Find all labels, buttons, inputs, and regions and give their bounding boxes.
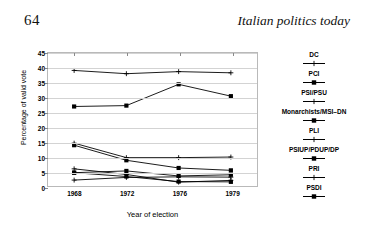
figure-vote-share-chart: Percentage of valid vote 051015202530354… <box>0 44 368 243</box>
data-point-marker-square <box>312 118 316 122</box>
grid-line <box>48 128 257 129</box>
legend-marker-cross-icon <box>301 59 327 68</box>
y-tick-label: 15 <box>38 140 45 147</box>
data-point-marker-square <box>177 166 181 170</box>
grid-line <box>48 173 257 174</box>
legend-label: PLI <box>309 126 319 135</box>
y-tick-mark <box>45 98 48 99</box>
legend-entry-pli[interactable]: PLI <box>262 126 366 144</box>
x-tick-mark <box>233 53 234 56</box>
legend-label: PRI <box>309 164 320 173</box>
data-point-marker-cross <box>176 69 181 74</box>
series-line <box>74 70 231 73</box>
legend-marker-square-icon <box>301 154 327 163</box>
legend-label: PSDI <box>306 183 321 192</box>
legend-marker-square-icon <box>301 192 327 201</box>
x-tick-label: 1972 <box>120 190 134 197</box>
legend-label: DC <box>309 50 318 59</box>
legend-entry-pri[interactable]: PRI <box>262 164 366 182</box>
y-tick-mark <box>45 158 48 159</box>
y-tick-label: 40 <box>38 65 45 72</box>
data-point-marker-square <box>177 174 181 178</box>
y-tick-label: 25 <box>38 110 45 117</box>
y-tick-mark <box>45 143 48 144</box>
legend-entry-psiup-pdup-dp[interactable]: PSIUP/PDUP/DP <box>262 145 366 163</box>
data-point-marker-square <box>312 80 316 84</box>
grid-line <box>48 113 257 114</box>
plot-area: 0510152025303540451968197219761979 <box>47 52 258 187</box>
x-axis-title: Year of election <box>47 210 258 219</box>
grid-line <box>48 53 257 54</box>
y-tick-label: 0 <box>41 185 45 192</box>
y-tick-label: 35 <box>38 80 45 87</box>
data-point-marker-cross <box>311 99 316 104</box>
x-tick-mark <box>180 53 181 56</box>
series-line <box>74 84 231 106</box>
grid-line <box>48 143 257 144</box>
running-head: Italian politics today <box>238 13 351 29</box>
y-tick-mark <box>45 53 48 54</box>
grid-line <box>48 68 257 69</box>
grid-line <box>48 98 257 99</box>
grid-line <box>48 83 257 84</box>
data-point-marker-cross <box>228 70 233 75</box>
y-tick-label: 5 <box>41 170 45 177</box>
legend-entry-dc[interactable]: DC <box>262 50 366 68</box>
data-point-marker-cross <box>311 175 316 180</box>
chart-legend: DCPCIPSI/PSUMonarchists/MSI–DNPLIPSIUP/P… <box>262 50 366 202</box>
legend-entry-psdi[interactable]: PSDI <box>262 183 366 201</box>
x-tick-label: 1968 <box>67 190 81 197</box>
y-tick-label: 45 <box>38 50 45 57</box>
y-tick-mark <box>45 83 48 84</box>
data-point-marker-cross <box>72 178 77 183</box>
legend-label: PCI <box>309 69 320 78</box>
data-point-marker-square <box>312 194 316 198</box>
grid-line <box>48 158 257 159</box>
series-pci <box>72 82 233 108</box>
y-tick-label: 10 <box>38 155 45 162</box>
data-point-marker-cross <box>311 137 316 142</box>
legend-marker-square-icon <box>301 116 327 125</box>
series-dc <box>72 68 234 76</box>
y-axis-title: Percentage of valid vote <box>20 38 27 178</box>
legend-label: Monarchists/MSI–DN <box>282 107 347 116</box>
legend-entry-pci[interactable]: PCI <box>262 69 366 87</box>
legend-label: PSI/PSU <box>301 88 327 97</box>
x-tick-label: 1979 <box>225 190 239 197</box>
x-tick-mark <box>127 53 128 56</box>
y-tick-mark <box>45 68 48 69</box>
legend-marker-cross-icon <box>301 135 327 144</box>
legend-entry-monarchists-msi-dn[interactable]: Monarchists/MSI–DN <box>262 107 366 125</box>
series-line <box>74 143 231 157</box>
legend-label: PSIUP/PDUP/DP <box>289 145 339 154</box>
x-tick-mark <box>74 53 75 56</box>
legend-entry-psi-psu[interactable]: PSI/PSU <box>262 88 366 106</box>
legend-marker-cross-icon <box>301 97 327 106</box>
data-point-marker-square <box>312 156 316 160</box>
data-point-marker-cross <box>72 166 77 171</box>
y-tick-mark <box>45 173 48 174</box>
data-point-marker-square <box>229 180 233 184</box>
data-point-marker-square <box>177 179 181 183</box>
data-point-marker-square <box>124 104 128 108</box>
x-tick-label: 1976 <box>173 190 187 197</box>
data-point-marker-cross <box>124 71 129 76</box>
series-lines <box>48 53 257 186</box>
page-number: 64 <box>24 12 40 29</box>
y-tick-mark <box>45 188 48 189</box>
y-tick-label: 20 <box>38 125 45 132</box>
legend-marker-cross-icon <box>301 173 327 182</box>
legend-marker-square-icon <box>301 78 327 87</box>
y-tick-mark <box>45 113 48 114</box>
data-point-marker-cross <box>311 61 316 66</box>
y-tick-label: 30 <box>38 95 45 102</box>
y-tick-mark <box>45 128 48 129</box>
data-point-marker-square <box>229 168 233 172</box>
book-page: 64 Italian politics today Percentage of … <box>0 0 368 243</box>
data-point-marker-square <box>72 104 76 108</box>
